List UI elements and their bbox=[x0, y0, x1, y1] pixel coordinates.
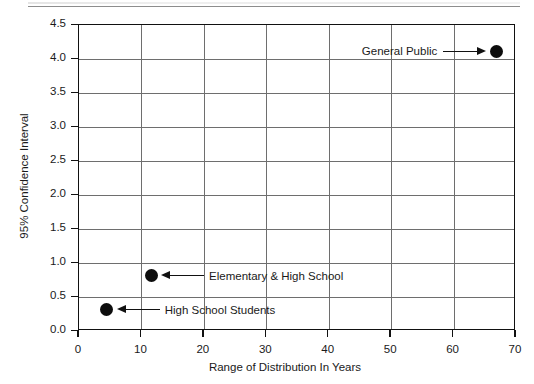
annotation-leader-line bbox=[443, 51, 479, 52]
gridline-horizontal bbox=[79, 127, 514, 128]
x-axis-tick-label: 70 bbox=[495, 343, 534, 355]
top-separator-rule bbox=[28, 6, 520, 7]
y-axis-tick-mark bbox=[71, 296, 78, 297]
gridline-horizontal bbox=[79, 229, 514, 230]
x-axis-tick-label: 10 bbox=[120, 343, 160, 355]
gridline-vertical bbox=[266, 25, 267, 329]
y-axis-tick-label: 2.0 bbox=[26, 188, 66, 200]
y-axis-title: 95% Confidence Interval bbox=[18, 76, 30, 276]
y-axis-tick-label: 0.5 bbox=[26, 290, 66, 302]
y-axis-tick-mark bbox=[71, 194, 78, 195]
y-axis-tick-label: 0.0 bbox=[26, 324, 66, 336]
gridline-vertical bbox=[204, 25, 205, 329]
x-axis-tick-label: 0 bbox=[58, 343, 98, 355]
annotation-arrowhead bbox=[477, 47, 486, 55]
gridline-vertical bbox=[141, 25, 142, 329]
data-point-marker[interactable] bbox=[145, 269, 158, 282]
gridline-horizontal bbox=[79, 93, 514, 94]
y-axis-tick-mark bbox=[71, 262, 78, 263]
x-axis-tick-label: 20 bbox=[183, 343, 223, 355]
y-axis-tick-label: 3.0 bbox=[26, 120, 66, 132]
y-axis-tick-mark bbox=[71, 92, 78, 93]
gridline-horizontal bbox=[79, 195, 514, 196]
y-axis-tick-mark bbox=[71, 24, 78, 25]
x-axis-tick-mark bbox=[202, 330, 203, 337]
annotation-leader-line bbox=[124, 309, 160, 310]
x-axis-tick-mark bbox=[452, 330, 453, 337]
x-axis-tick-mark bbox=[389, 330, 390, 337]
gridline-vertical bbox=[454, 25, 455, 329]
x-axis-title: Range of Distribution In Years bbox=[0, 361, 534, 373]
x-axis-tick-mark bbox=[77, 330, 78, 337]
y-axis-tick-label-wrap: 4.5 bbox=[22, 18, 66, 30]
gridline-vertical bbox=[391, 25, 392, 329]
x-axis-tick-mark bbox=[140, 330, 141, 337]
annotation-leader-line bbox=[168, 275, 204, 276]
gridline-horizontal bbox=[79, 263, 514, 264]
scatter-chart-figure: 0.00.51.01.52.02.53.03.54.04.50102030405… bbox=[0, 0, 534, 384]
x-axis-title-text: Range of Distribution In Years bbox=[173, 361, 361, 373]
y-axis-tick-mark bbox=[71, 228, 78, 229]
x-axis-tick-mark bbox=[265, 330, 266, 337]
y-axis-tick-label-wrap: 0.5 bbox=[22, 290, 66, 302]
x-axis-tick-mark bbox=[327, 330, 328, 337]
gridline-horizontal bbox=[79, 161, 514, 162]
x-axis-tick-label: 60 bbox=[433, 343, 473, 355]
y-axis-tick-label: 1.0 bbox=[26, 256, 66, 268]
y-axis-tick-label-wrap: 0.0 bbox=[22, 324, 66, 336]
x-axis-tick-mark bbox=[514, 330, 515, 337]
data-point-annotation-label: General Public bbox=[0, 45, 437, 57]
y-axis-tick-mark bbox=[71, 126, 78, 127]
x-axis-tick-label: 50 bbox=[370, 343, 410, 355]
gridline-horizontal bbox=[79, 297, 514, 298]
data-point-annotation-label: High School Students bbox=[165, 304, 276, 316]
gridline-vertical bbox=[329, 25, 330, 329]
x-axis-tick-label: 40 bbox=[308, 343, 348, 355]
gridline-horizontal bbox=[79, 59, 514, 60]
data-point-marker[interactable] bbox=[490, 45, 503, 58]
y-axis-tick-label: 1.5 bbox=[26, 222, 66, 234]
cropped-caption-ghost bbox=[28, 2, 520, 4]
y-axis-tick-label: 3.5 bbox=[26, 86, 66, 98]
y-axis-tick-mark bbox=[71, 58, 78, 59]
plot-area bbox=[78, 24, 515, 330]
x-axis-tick-label: 30 bbox=[245, 343, 285, 355]
y-axis-tick-mark bbox=[71, 160, 78, 161]
data-point-annotation-label: Elementary & High School bbox=[209, 270, 343, 282]
y-axis-tick-label: 2.5 bbox=[26, 154, 66, 166]
y-axis-tick-label: 4.5 bbox=[26, 18, 66, 30]
